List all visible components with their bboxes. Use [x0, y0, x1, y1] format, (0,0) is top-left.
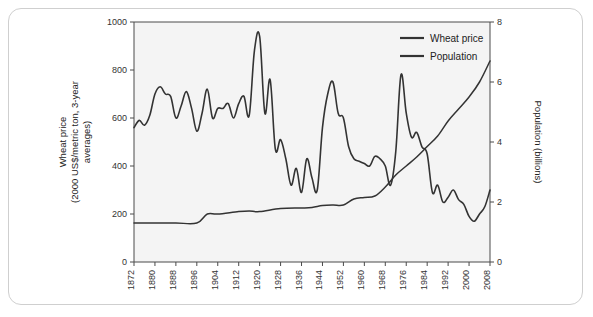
chart-root: 02004006008001000 02468 1872188018881896…: [0, 0, 593, 317]
chart-svg: 02004006008001000 02468 1872188018881896…: [0, 0, 593, 317]
x-tick-label: 1912: [231, 270, 241, 290]
y-axis-title-line3: averages): [81, 121, 92, 163]
y-axis-title-line1: Wheat price: [57, 117, 68, 168]
x-tick-label: 1928: [273, 270, 283, 290]
x-tick-label: 1904: [210, 270, 220, 290]
legend-label-wheat-price: Wheat price: [430, 33, 484, 44]
right-tick-label: 4: [497, 137, 502, 147]
x-tick-label: 1944: [314, 270, 324, 290]
left-tick-label: 600: [112, 113, 127, 123]
x-axis-ticks: 1872188018881896190419121920192819361944…: [126, 262, 492, 290]
y-axis-title: Wheat price (2000 US$/metric ton, 3-year…: [57, 81, 92, 203]
x-tick-label: 1952: [335, 270, 345, 290]
x-tick-label: 1968: [377, 270, 387, 290]
x-tick-label: 1992: [440, 270, 450, 290]
x-tick-label: 1888: [168, 270, 178, 290]
left-tick-label: 1000: [107, 17, 127, 27]
left-tick-label: 400: [112, 161, 127, 171]
right-tick-label: 6: [497, 77, 502, 87]
x-tick-label: 2000: [461, 270, 471, 290]
x-tick-label: 1936: [294, 270, 304, 290]
x-tick-label: 2008: [482, 270, 492, 290]
right-tick-label: 0: [497, 257, 502, 267]
x-tick-label: 1920: [252, 270, 262, 290]
legend-label-population: Population: [430, 51, 477, 62]
x-tick-label: 1872: [126, 270, 136, 290]
x-tick-label: 1880: [147, 270, 157, 290]
left-tick-label: 800: [112, 65, 127, 75]
y2-axis-title: Population (billions): [533, 101, 544, 184]
x-tick-label: 1960: [356, 270, 366, 290]
left-tick-label: 200: [112, 209, 127, 219]
x-tick-label: 1896: [189, 270, 199, 290]
right-tick-label: 2: [497, 197, 502, 207]
right-tick-label: 8: [497, 17, 502, 27]
x-tick-label: 1984: [419, 270, 429, 290]
right-axis-ticks: 02468: [490, 17, 502, 267]
left-tick-label: 0: [122, 257, 127, 267]
x-tick-label: 1976: [398, 270, 408, 290]
y-axis-title-line2: (2000 US$/metric ton, 3-year: [69, 81, 80, 203]
left-axis-ticks: 02004006008001000: [107, 17, 134, 267]
